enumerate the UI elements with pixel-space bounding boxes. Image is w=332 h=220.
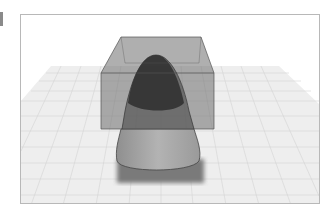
- translucent-box: [101, 37, 214, 129]
- paraboloid-lower: [116, 129, 200, 170]
- figure-frame: [20, 14, 320, 204]
- edge-mark: [0, 12, 3, 26]
- scene-3d: [21, 15, 320, 204]
